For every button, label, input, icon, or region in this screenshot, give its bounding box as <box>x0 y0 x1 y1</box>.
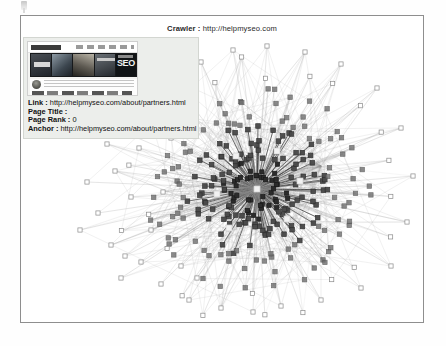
graph-node[interactable] <box>119 276 123 280</box>
graph-node[interactable] <box>193 174 198 179</box>
graph-node[interactable] <box>273 87 277 91</box>
graph-node[interactable] <box>210 207 215 212</box>
graph-node[interactable] <box>308 153 313 158</box>
graph-node[interactable] <box>209 162 214 167</box>
graph-node[interactable] <box>329 246 333 250</box>
graph-node[interactable] <box>263 76 267 80</box>
graph-node[interactable] <box>281 156 286 161</box>
graph-node[interactable] <box>201 276 205 280</box>
graph-node[interactable] <box>342 204 346 208</box>
graph-node[interactable] <box>360 167 364 171</box>
graph-node[interactable] <box>405 220 409 224</box>
graph-node-highlighted[interactable] <box>254 186 260 192</box>
graph-node[interactable] <box>227 203 232 208</box>
graph-node[interactable] <box>179 264 183 268</box>
graph-node[interactable] <box>272 187 276 191</box>
graph-node[interactable] <box>288 256 292 260</box>
graph-node[interactable] <box>254 258 258 262</box>
graph-node[interactable] <box>266 87 270 91</box>
graph-node[interactable] <box>301 115 305 119</box>
graph-node[interactable] <box>165 153 169 157</box>
graph-node[interactable] <box>358 104 362 108</box>
graph-node[interactable] <box>183 150 187 154</box>
graph-node[interactable] <box>298 238 303 243</box>
graph-node[interactable] <box>155 174 159 178</box>
graph-node[interactable] <box>325 107 329 111</box>
graph-node[interactable] <box>312 172 317 177</box>
graph-node[interactable] <box>220 172 225 177</box>
graph-node[interactable] <box>237 222 242 227</box>
graph-node[interactable] <box>78 228 82 232</box>
graph-node[interactable] <box>227 252 231 256</box>
graph-node[interactable] <box>219 232 224 237</box>
graph-node[interactable] <box>139 260 143 264</box>
graph-node[interactable] <box>282 232 287 237</box>
graph-node[interactable] <box>293 243 297 247</box>
graph-node[interactable] <box>286 247 290 251</box>
graph-node[interactable] <box>301 157 306 162</box>
graph-node[interactable] <box>353 191 357 195</box>
graph-node[interactable] <box>223 112 227 116</box>
graph-node[interactable] <box>231 48 235 52</box>
graph-node[interactable] <box>286 196 290 200</box>
graph-node[interactable] <box>275 162 279 166</box>
graph-node[interactable] <box>294 150 299 155</box>
graph-node[interactable] <box>312 266 316 270</box>
graph-node[interactable] <box>222 187 227 192</box>
graph-node[interactable] <box>162 170 166 174</box>
graph-node[interactable] <box>245 208 249 212</box>
graph-node[interactable] <box>221 179 226 184</box>
graph-node[interactable] <box>219 253 223 257</box>
graph-node[interactable] <box>323 260 327 264</box>
graph-node[interactable] <box>225 212 230 217</box>
graph-node[interactable] <box>285 191 289 195</box>
graph-node[interactable] <box>285 116 289 120</box>
graph-node[interactable] <box>233 159 238 164</box>
graph-node[interactable] <box>379 130 383 134</box>
graph-node[interactable] <box>218 141 223 146</box>
graph-node[interactable] <box>311 189 316 194</box>
graph-node[interactable] <box>369 193 373 197</box>
graph-node[interactable] <box>295 198 300 203</box>
graph-node[interactable] <box>270 178 274 182</box>
graph-node[interactable] <box>193 239 197 243</box>
graph-node[interactable] <box>257 217 261 221</box>
graph-node-highlighted[interactable] <box>274 148 280 154</box>
graph-node[interactable] <box>243 266 247 270</box>
graph-node[interactable] <box>157 222 161 226</box>
graph-node[interactable] <box>181 216 185 220</box>
graph-node[interactable] <box>127 163 131 167</box>
graph-node[interactable] <box>203 201 208 206</box>
graph-node[interactable] <box>149 228 153 232</box>
graph-node[interactable] <box>148 218 152 222</box>
graph-node[interactable] <box>339 136 343 140</box>
graph-node[interactable] <box>222 217 227 222</box>
graph-node[interactable] <box>258 203 262 207</box>
graph-node-highlighted[interactable] <box>214 191 220 197</box>
graph-node[interactable] <box>261 195 265 199</box>
graph-node[interactable] <box>239 161 243 165</box>
graph-node[interactable] <box>303 124 307 128</box>
graph-node[interactable] <box>232 122 236 126</box>
graph-node[interactable] <box>389 235 393 239</box>
graph-node[interactable] <box>251 213 255 217</box>
graph-node[interactable] <box>332 195 336 199</box>
graph-node[interactable] <box>315 215 320 220</box>
graph-node[interactable] <box>300 224 305 229</box>
graph-node[interactable] <box>218 102 222 106</box>
graph-node[interactable] <box>274 200 278 204</box>
graph-node[interactable] <box>308 74 312 78</box>
graph-node[interactable] <box>219 154 224 159</box>
graph-node[interactable] <box>322 228 326 232</box>
graph-node[interactable] <box>263 313 267 317</box>
graph-node[interactable] <box>271 128 276 133</box>
graph-node[interactable] <box>238 175 242 179</box>
graph-node[interactable] <box>265 44 269 48</box>
graph-node[interactable] <box>234 213 239 218</box>
graph-node[interactable] <box>326 174 330 178</box>
graph-node[interactable] <box>389 264 393 268</box>
graph-node[interactable] <box>248 153 253 158</box>
graph-node[interactable] <box>234 184 238 188</box>
graph-node[interactable] <box>280 134 285 139</box>
graph-node[interactable] <box>246 198 250 202</box>
